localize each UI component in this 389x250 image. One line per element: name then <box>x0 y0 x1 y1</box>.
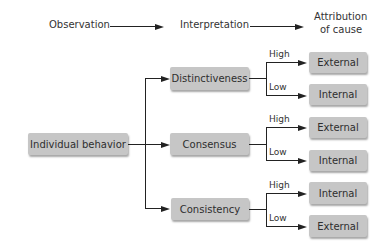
consensus-low-label: Low <box>269 147 287 157</box>
consistency-connector <box>249 209 266 210</box>
consistency-high-outcome: Internal <box>319 188 358 199</box>
consensus-high-outcome-box: External <box>309 117 367 138</box>
consistency-low-arrowhead <box>298 224 307 230</box>
individual-behavior-label: Individual behavior <box>30 139 126 150</box>
distinctiveness-high-label: High <box>269 49 290 59</box>
consensus-high-label: High <box>269 114 290 124</box>
header-interpretation: Interpretation <box>180 19 249 30</box>
distinctiveness-high-arrowhead <box>298 60 307 66</box>
header-observation: Observation <box>49 19 110 30</box>
distinctiveness-low-outcome: Internal <box>319 89 358 100</box>
consensus-high-line <box>266 127 300 128</box>
consistency-low-outcome-box: External <box>309 215 367 237</box>
consensus-fork <box>266 127 267 161</box>
distinctiveness-box: Distinctiveness <box>170 67 249 90</box>
consistency-high-label: High <box>269 180 290 190</box>
distinctiveness-high-outcome: External <box>317 57 359 68</box>
consistency-low-label: Low <box>269 213 287 223</box>
distinctiveness-label: Distinctiveness <box>172 73 248 84</box>
consensus-label: Consensus <box>183 139 237 150</box>
consistency-label: Consistency <box>180 204 240 215</box>
header-arrowhead-1 <box>155 24 164 30</box>
header-attribution-line1: Attribution <box>314 11 367 22</box>
branch-arrowhead-distinctiveness <box>161 76 170 82</box>
consistency-fork <box>266 193 267 227</box>
consensus-low-line <box>266 160 300 161</box>
distinctiveness-fork <box>266 62 267 95</box>
distinctiveness-low-arrowhead <box>298 93 307 99</box>
consensus-box: Consensus <box>170 133 249 155</box>
consistency-high-line <box>266 193 300 194</box>
header-arrow-line-1 <box>110 26 156 27</box>
header-arrow-line-2 <box>250 26 296 27</box>
consensus-low-outcome-box: Internal <box>309 150 367 171</box>
distinctiveness-low-label: Low <box>269 82 287 92</box>
distinctiveness-connector <box>249 78 266 79</box>
consensus-high-outcome: External <box>317 122 359 133</box>
branch-arrowhead-consistency <box>161 206 170 212</box>
consensus-low-arrowhead <box>298 158 307 164</box>
distinctiveness-high-outcome-box: External <box>309 52 367 73</box>
consensus-low-outcome: Internal <box>319 155 358 166</box>
consistency-low-outcome: External <box>317 221 359 232</box>
header-attribution-line2: of cause <box>320 24 362 35</box>
distinctiveness-low-line <box>266 95 300 96</box>
branch-arrowhead-consensus <box>161 142 170 148</box>
consistency-high-outcome-box: Internal <box>309 182 367 204</box>
header-arrowhead-2 <box>295 24 304 30</box>
root-connector <box>128 144 146 145</box>
consistency-low-line <box>266 226 300 227</box>
consistency-high-arrowhead <box>298 191 307 197</box>
consensus-high-arrowhead <box>298 125 307 131</box>
distinctiveness-low-outcome-box: Internal <box>309 84 367 105</box>
consistency-box: Consistency <box>171 198 249 220</box>
distinctiveness-high-line <box>266 62 300 63</box>
individual-behavior-box: Individual behavior <box>28 133 128 155</box>
consensus-connector <box>249 144 266 145</box>
